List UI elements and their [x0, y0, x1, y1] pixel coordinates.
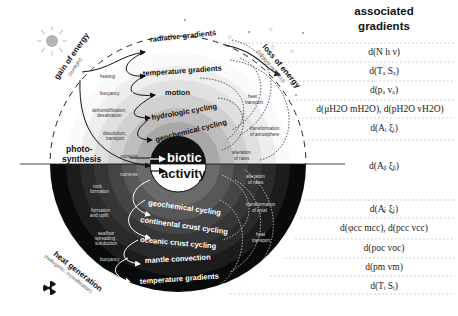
center-label-biotic: biotic	[167, 150, 202, 165]
label-buoyancy: buoyancy	[100, 91, 120, 96]
gradient-oceanic-crust: d(poc voc)	[364, 243, 405, 254]
label-nutrients-upper: nutrients	[120, 154, 138, 159]
star-icon: ☆	[268, 26, 273, 32]
label-transformation-crust-1: transformation	[246, 202, 276, 207]
gradients-header-line1: associated	[354, 5, 413, 17]
gradient-geochemical-lower: d(Aⱼ ξⱼ)	[370, 204, 399, 215]
label-transformation-atmosphere-2: of atmosphere	[250, 132, 280, 137]
label-heat-transport-lower-1: heat	[256, 232, 266, 237]
label-nutrients-lower: nutrients	[120, 172, 138, 177]
gradient-hydrologic: d(μH2O mH2O), d(pH2O vH2O)	[316, 104, 444, 115]
label-transport: transport	[106, 136, 125, 141]
label-photosynthesis-2: synthesis	[62, 154, 101, 164]
gradient-motion: d(pₐ vₐ)	[370, 85, 398, 96]
gradient-geochemical-upper: d(Aᵢ ξᵢ)	[370, 123, 398, 134]
label-buoyancy-lower: buoyancy	[100, 257, 120, 262]
sun-icon	[37, 26, 67, 56]
label-rock-formation-2: formation	[90, 189, 110, 194]
label-desalination: desalination	[97, 113, 122, 118]
label-seafloor-3: subduction	[95, 241, 118, 246]
star-icon: ☆	[289, 48, 294, 54]
radiation-icon	[41, 281, 56, 297]
label-alteration-rates-lower-1: alteration	[246, 174, 265, 179]
center-label-activity: activity	[161, 166, 207, 181]
gradients-list: d(N h ν) d(Tₐ Sₐ) d(pₐ vₐ) d(μH2O mH2O),…	[316, 47, 444, 292]
star-icon: ☆	[270, 44, 275, 50]
star-icon: ☆	[227, 34, 232, 40]
gradient-mantle: d(pm vm)	[365, 262, 403, 273]
label-heat-transport-lower-2: transport	[252, 238, 271, 243]
label-alteration-rates-lower-2: of rates	[248, 180, 264, 185]
gradient-biotic: d(Aᵦ ξᵦ)	[369, 161, 399, 172]
earth-system-diagram: biotic activity radiative gradients temp…	[0, 0, 458, 316]
label-alteration-rates-upper-2: of rates	[234, 156, 250, 161]
gradients-header-line2: gradients	[358, 20, 410, 32]
label-transformation-crust-2: of crust	[252, 208, 268, 213]
gradient-continental-crust: d(φcc mcc), d(pcc vcc)	[340, 223, 428, 234]
gradient-radiative: d(N h ν)	[368, 47, 400, 58]
label-photosynthesis-1: photo-	[66, 144, 93, 154]
label-heat-transport-1: heat	[248, 94, 258, 99]
gradient-temperature-lower: d(Tᵢ Sᵢ)	[370, 281, 398, 292]
label-alteration-rates-upper-1: alteration	[232, 150, 251, 155]
label-transformation-atmosphere-1: transformation	[250, 126, 280, 131]
label-heating: heating	[100, 74, 116, 79]
cycle-motion: motion	[165, 88, 190, 97]
label-formation-uplift-2: and uplift	[90, 213, 109, 218]
gradient-temperature: d(Tₐ Sₐ)	[369, 66, 399, 77]
label-heat-transport-2: transport	[245, 100, 264, 105]
